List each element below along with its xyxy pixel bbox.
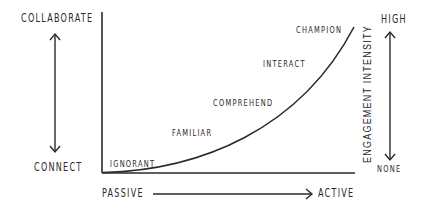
high-label: HIGH <box>381 14 407 26</box>
stage-label-interact: INTERACT <box>263 59 306 69</box>
stage-label-familiar: FAMILIAR <box>172 128 212 138</box>
stage-label-champion: CHAMPION <box>296 25 342 35</box>
active-label: ACTIVE <box>318 188 354 200</box>
engagement-intensity-axis-title: ENGAGEMENT INTENSITY <box>362 25 374 163</box>
stage-label-ignorant: IGNORANT <box>110 159 155 169</box>
engagement-diagram: COLLABORATE CONNECT IGNORANT FAMILIAR CO… <box>0 0 424 212</box>
right-double-arrow-icon <box>385 32 395 160</box>
connect-label: CONNECT <box>34 162 82 174</box>
passive-label: PASSIVE <box>102 188 144 200</box>
stage-label-comprehend: COMPREHEND <box>213 98 273 108</box>
none-label: NONE <box>377 164 401 174</box>
passive-to-active-arrow-icon <box>153 189 312 199</box>
left-double-arrow-icon <box>50 34 60 152</box>
collaborate-label: COLLABORATE <box>21 13 93 25</box>
